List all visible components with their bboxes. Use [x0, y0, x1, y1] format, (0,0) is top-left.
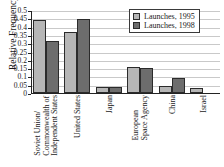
legend: Launches, 1995Launches, 1998 [129, 9, 200, 33]
x-axis-label: United States [63, 95, 95, 167]
bar [140, 68, 153, 93]
x-axis-label-line: Independent States [51, 95, 60, 156]
x-axis-label-text: Japan [105, 95, 114, 113]
bar [64, 32, 77, 93]
y-axis-tick-label: 0.45 [14, 15, 27, 23]
y-axis-tick-label: 0 [23, 90, 27, 98]
y-axis-tick-label: 0.05 [14, 82, 27, 90]
legend-item: Launches, 1995 [133, 12, 195, 21]
y-axis-tick-label: 0.35 [14, 32, 27, 40]
x-axis-label-text: Israel [200, 95, 209, 113]
x-axis-label: Israel [189, 95, 221, 167]
bar [96, 87, 109, 93]
legend-label: Launches, 1998 [144, 21, 195, 30]
bar-group [31, 11, 63, 93]
x-axis-label: China [157, 95, 189, 167]
y-axis-tick-label: 0.3 [18, 40, 28, 48]
legend-item: Launches, 1998 [133, 21, 195, 30]
legend-swatch-icon [133, 22, 140, 29]
x-axis-label-line: Space Agency [141, 95, 150, 141]
y-axis-tick-label: 0.15 [14, 65, 27, 73]
bar [159, 86, 172, 93]
x-axis-label: Soviet Union/Commonwealth ofIndependent … [31, 95, 63, 167]
bar [77, 19, 90, 93]
bar-group [94, 11, 126, 93]
bar [172, 78, 185, 93]
x-axis-label-line: United States [74, 95, 83, 138]
bar [33, 20, 46, 93]
x-axis-label-text: Soviet Union/Commonwealth ofIndependent … [34, 95, 60, 156]
bar-group [63, 11, 95, 93]
x-axis-label-text: China [168, 95, 177, 114]
bar [46, 41, 59, 93]
y-axis-tick-label: 0.1 [18, 73, 28, 81]
bar-chart: Relative Frequency 00.050.10.150.20.250.… [0, 0, 224, 167]
x-axis-label-line: Israel [200, 95, 209, 113]
x-axis-label-text: EuropeanSpace Agency [133, 95, 150, 141]
bar [127, 67, 140, 93]
x-axis-line [31, 93, 220, 94]
x-axis-label-line: Japan [105, 95, 114, 113]
bar [190, 88, 203, 93]
y-axis-tick-label: 0.25 [14, 49, 27, 57]
y-axis-tick-label: 0.5 [18, 7, 28, 15]
legend-label: Launches, 1995 [144, 12, 195, 21]
y-axis-tick-label: 0.4 [18, 24, 28, 32]
y-axis-tick-label: 0.2 [18, 57, 28, 65]
x-axis-tick-labels: Soviet Union/Commonwealth ofIndependent … [31, 95, 220, 167]
bar [109, 87, 122, 93]
x-axis-label-line: China [168, 95, 177, 114]
x-axis-label-text: United States [74, 95, 83, 138]
x-axis-label: Japan [94, 95, 126, 167]
y-axis-tick-labels: 00.050.10.150.20.250.30.350.40.450.5 [0, 11, 27, 94]
x-axis-label: EuropeanSpace Agency [126, 95, 158, 167]
legend-swatch-icon [133, 13, 140, 20]
